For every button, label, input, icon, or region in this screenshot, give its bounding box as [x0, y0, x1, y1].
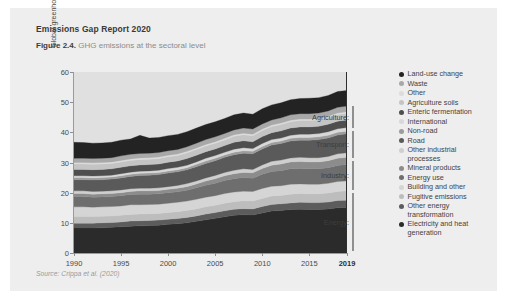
y-axis-line	[73, 72, 74, 253]
source-note: Source: Crippa et al. (2020)	[36, 270, 120, 277]
legend-item[interactable]: Waste	[399, 80, 507, 89]
y-tick-label: 30	[61, 158, 69, 167]
sector-bracket-bar	[352, 131, 354, 158]
y-tick-mark	[70, 132, 73, 133]
x-tick-mark	[121, 253, 122, 256]
legend-item[interactable]: International	[399, 118, 507, 127]
legend-bullet-icon	[399, 185, 404, 190]
legend-bullet-icon	[399, 166, 404, 171]
x-axis-line	[73, 253, 348, 254]
legend-label: Fugitive emissions	[408, 193, 467, 202]
legend-label: Non-road	[408, 127, 438, 136]
legend-item[interactable]: Road	[399, 137, 507, 146]
legend-item[interactable]: Enteric fermentation	[399, 108, 507, 117]
x-tick-label: 2010	[254, 259, 271, 268]
legend-item[interactable]: Other energy transformation	[399, 202, 507, 219]
sector-bracket-label: Transport:	[316, 140, 349, 149]
legend-bullet-icon	[399, 222, 404, 227]
y-tick-mark	[70, 253, 73, 254]
x-tick-mark	[215, 253, 216, 256]
legend-item[interactable]: Other industrial processes	[399, 146, 507, 163]
x-tick-label: 2019	[339, 259, 356, 268]
legend-label: Electricity and heat generation	[408, 220, 469, 237]
x-tick-mark	[262, 253, 263, 256]
legend-label: Other energy transformation	[408, 202, 454, 219]
y-tick-mark	[70, 223, 73, 224]
legend-label: Road	[408, 137, 425, 146]
legend-bullet-icon	[399, 110, 404, 115]
x-tick-mark	[347, 253, 348, 256]
legend-item[interactable]: Fugitive emissions	[399, 193, 507, 202]
legend-label: Agriculture soils	[408, 99, 459, 108]
y-tick-label: 40	[61, 128, 69, 137]
chart-plot-area: 0102030405060 19901995200020052010201520…	[74, 72, 347, 253]
legend-bullet-icon	[399, 72, 404, 77]
legend-label: Other	[408, 89, 426, 98]
x-tick-mark	[309, 253, 310, 256]
x-tick-mark	[74, 253, 75, 256]
legend-item[interactable]: Building and other	[399, 183, 507, 192]
legend-label: International	[408, 118, 448, 127]
sector-bracket-label: Agriculture:	[312, 113, 349, 122]
x-tick-label: 1995	[113, 259, 130, 268]
y-tick-mark	[70, 163, 73, 164]
legend-item[interactable]: Mineral products	[399, 164, 507, 173]
chart-legend: Land-use changeWasteOtherAgriculture soi…	[399, 70, 507, 238]
figure-card: Emissions Gap Report 2020 Figure 2.4. GH…	[10, 8, 497, 291]
legend-label: Waste	[408, 80, 428, 89]
legend-label: Enteric fermentation	[408, 108, 472, 117]
x-tick-label: 1990	[66, 259, 83, 268]
legend-label: Land-use change	[408, 70, 464, 79]
x-tick-mark	[168, 253, 169, 256]
sector-bracket-label: Energy:	[324, 218, 349, 227]
x-tick-label: 2015	[301, 259, 318, 268]
legend-bullet-icon	[399, 138, 404, 143]
legend-label: Building and other	[408, 183, 466, 192]
legend-item[interactable]: Agriculture soils	[399, 99, 507, 108]
legend-bullet-icon	[399, 100, 404, 105]
y-tick-label: 10	[61, 218, 69, 227]
legend-label: Other industrial processes	[408, 146, 457, 163]
y-axis-title: Global greenhouse gas emissions (GtCO₂e)	[46, 0, 60, 70]
x-tick-label: 2000	[160, 259, 177, 268]
sector-bracket-bar	[352, 193, 354, 251]
legend-item[interactable]: Energy use	[399, 174, 507, 183]
legend-bullet-icon	[399, 129, 404, 134]
legend-bullet-icon	[399, 119, 404, 124]
y-tick-mark	[70, 102, 73, 103]
figure-caption: Figure 2.4. GHG emissions at the sectora…	[36, 41, 205, 50]
legend-bullet-icon	[399, 194, 404, 199]
x-tick-label: 2005	[207, 259, 224, 268]
legend-item[interactable]: Electricity and heat generation	[399, 220, 507, 237]
y-tick-label: 0	[65, 249, 69, 258]
sector-bracket-bar	[352, 106, 354, 128]
legend-bullet-icon	[399, 148, 404, 153]
y-tick-label: 50	[61, 98, 69, 107]
legend-bullet-icon	[399, 81, 404, 86]
legend-item[interactable]: Land-use change	[399, 70, 507, 79]
legend-bullet-icon	[399, 175, 404, 180]
y-tick-label: 20	[61, 188, 69, 197]
legend-label: Energy use	[408, 174, 444, 183]
sector-bracket-bar	[352, 161, 354, 190]
legend-item[interactable]: Other	[399, 89, 507, 98]
sector-bracket-label: Industry:	[321, 171, 349, 180]
legend-bullet-icon	[399, 91, 404, 96]
y-tick-label: 60	[61, 68, 69, 77]
y-tick-mark	[70, 72, 73, 73]
legend-label: Mineral products	[408, 164, 461, 173]
legend-bullet-icon	[399, 204, 404, 209]
figure-caption-text: GHG emissions at the sectoral level	[78, 41, 205, 50]
legend-item[interactable]: Non-road	[399, 127, 507, 136]
stacked-area-chart	[74, 72, 347, 253]
y-tick-mark	[70, 193, 73, 194]
